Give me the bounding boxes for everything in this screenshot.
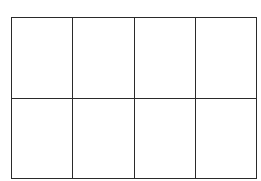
grid-cell-label	[73, 18, 133, 98]
grid-cell-label	[135, 18, 195, 98]
grid-cell-r0c0[interactable]	[12, 18, 73, 99]
grid-cell-r0c1[interactable]	[73, 18, 134, 99]
grid-cell-r1c0[interactable]	[12, 99, 73, 179]
grid-cell-r1c2[interactable]	[134, 99, 195, 179]
grid-body	[12, 18, 257, 179]
grid-cell-label	[196, 18, 256, 98]
grid-table	[11, 17, 257, 179]
grid-canvas	[0, 0, 261, 181]
grid-cell-label	[135, 99, 195, 178]
table-row	[12, 99, 257, 179]
grid-cell-r0c3[interactable]	[195, 18, 256, 99]
grid-cell-label	[73, 99, 133, 178]
grid-cell-label	[12, 99, 72, 178]
table-row	[12, 18, 257, 99]
grid-cell-r1c1[interactable]	[73, 99, 134, 179]
grid-cell-label	[12, 18, 72, 98]
grid-cell-r1c3[interactable]	[195, 99, 256, 179]
grid-cell-label	[196, 99, 256, 178]
grid-cell-r0c2[interactable]	[134, 18, 195, 99]
